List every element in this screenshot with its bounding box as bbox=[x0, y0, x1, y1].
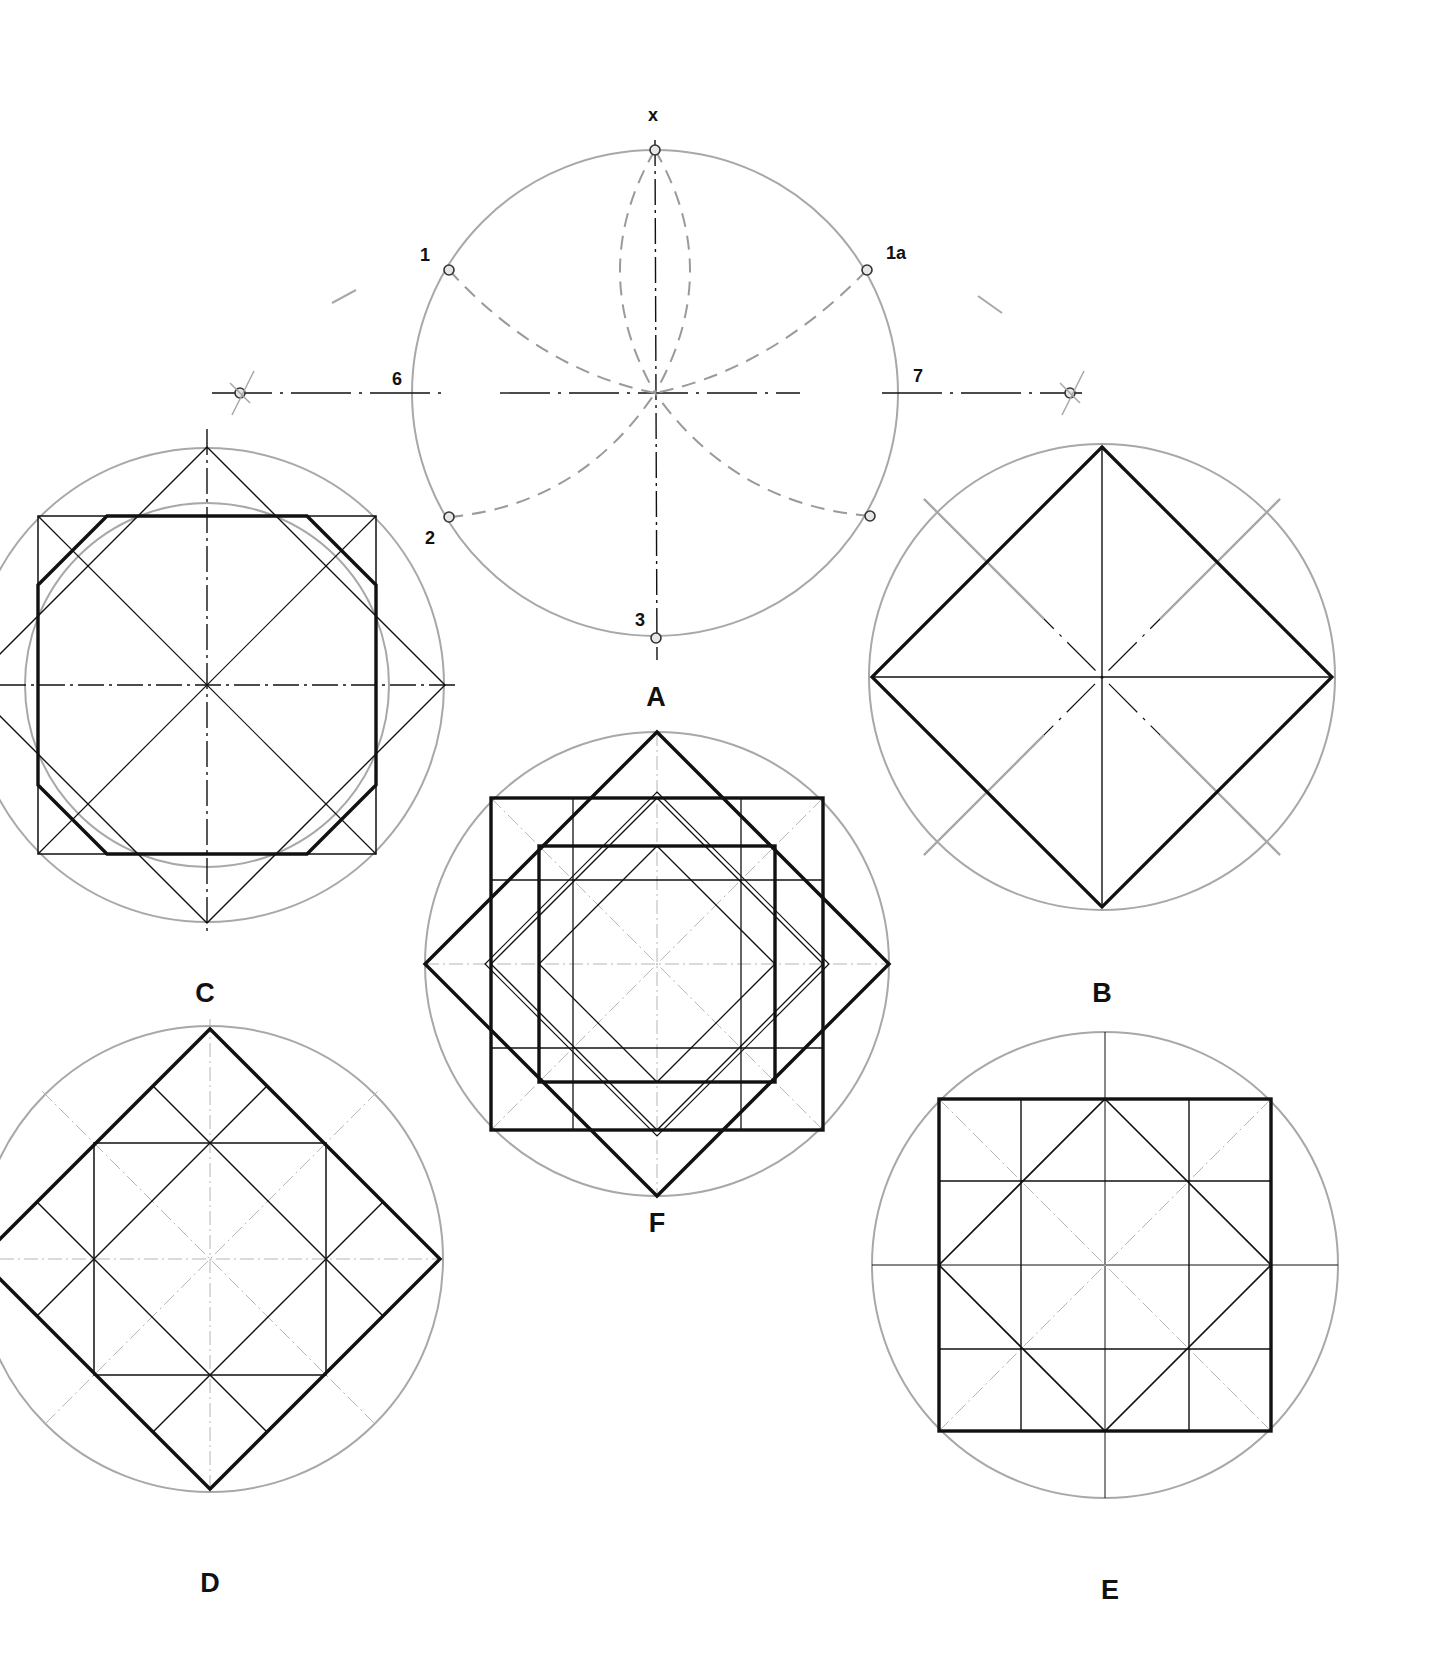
bisector-arc bbox=[924, 499, 1044, 619]
bisector-arc bbox=[1160, 735, 1280, 855]
vertical-axis bbox=[655, 140, 657, 660]
point-label-1a: 1a bbox=[886, 243, 906, 264]
dashed-arc-1 bbox=[449, 270, 655, 393]
figure-label-f: F bbox=[649, 1208, 666, 1239]
bisector-arc bbox=[924, 735, 1044, 855]
figure-e-square-grid bbox=[872, 1032, 1338, 1498]
grid-line bbox=[210, 1375, 267, 1432]
point-label-7: 7 bbox=[913, 366, 923, 387]
dashed-arc-2 bbox=[449, 393, 655, 517]
dashed-arc-2a bbox=[655, 393, 870, 516]
figure-f-interlaced-squares bbox=[425, 732, 889, 1196]
grid-line bbox=[37, 1202, 94, 1259]
point-marker-x bbox=[650, 145, 660, 155]
point-marker-1a bbox=[862, 265, 872, 275]
grid-line bbox=[326, 1259, 383, 1316]
point-marker-2a bbox=[865, 511, 875, 521]
dashed-arc-lens-right bbox=[655, 150, 690, 393]
figure-label-e: E bbox=[1101, 1575, 1119, 1606]
compass-tick-right bbox=[978, 296, 1002, 313]
figure-c-octagon bbox=[0, 429, 457, 935]
rotated-square bbox=[0, 447, 445, 923]
geometric-construction-plate bbox=[0, 0, 1434, 1675]
grid-line bbox=[153, 1375, 210, 1432]
figure-label-c: C bbox=[195, 978, 215, 1009]
point-marker-1 bbox=[444, 265, 454, 275]
point-marker-2 bbox=[444, 512, 454, 522]
compass-tick-left bbox=[332, 290, 356, 303]
point-label-2: 2 bbox=[425, 528, 435, 549]
figure-b-inscribed-diamond bbox=[869, 444, 1335, 910]
grid-line bbox=[210, 1086, 267, 1143]
figure-label-b: B bbox=[1092, 978, 1112, 1009]
figure-label-a: A bbox=[646, 682, 666, 713]
dashed-arc-1a bbox=[655, 270, 867, 393]
point-label-6: 6 bbox=[392, 369, 402, 390]
point-label-x: x bbox=[648, 105, 658, 126]
point-marker-3 bbox=[651, 633, 661, 643]
point-label-1: 1 bbox=[420, 245, 430, 266]
point-label-3: 3 bbox=[635, 610, 645, 631]
grid-line bbox=[326, 1202, 383, 1259]
figure-d-diamond-grid bbox=[0, 1019, 443, 1492]
dashed-arc-lens-left bbox=[620, 150, 655, 393]
grid-line bbox=[37, 1259, 94, 1316]
figure-label-d: D bbox=[200, 1568, 220, 1599]
grid-line bbox=[153, 1086, 210, 1143]
bisector-arc bbox=[1160, 499, 1280, 619]
